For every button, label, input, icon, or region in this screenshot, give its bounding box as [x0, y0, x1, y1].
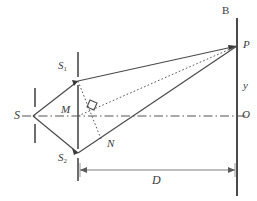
label-slit-s1-subscript: 1: [64, 65, 67, 72]
label-slit-s1: S1: [58, 60, 67, 73]
label-source-s: S: [14, 109, 20, 121]
label-fringe-y: y: [243, 80, 248, 91]
construction-line-m-to-p: [78, 46, 237, 116]
ray-slit1-to-p: [78, 46, 237, 81]
label-point-p: P: [243, 39, 250, 50]
label-foot-n: N: [107, 138, 114, 149]
ray-source-to-slit2: [33, 116, 78, 153]
label-midpoint-m: M: [61, 104, 70, 115]
construction-line-slit1-to-n: [78, 81, 101, 139]
label-slit-s2-subscript: 2: [64, 157, 67, 164]
label-distance-d: D: [152, 174, 161, 186]
label-screen-b: B: [222, 5, 229, 16]
ray-slit2-to-p: [78, 46, 237, 153]
label-slit-s2: S2: [58, 152, 67, 165]
diagram-svg: [0, 0, 257, 201]
label-center-o: O: [242, 109, 250, 120]
optics-diagram-canvas: S S1 S2 M N B P y O D: [0, 0, 257, 201]
ray-source-to-slit1: [33, 81, 78, 116]
